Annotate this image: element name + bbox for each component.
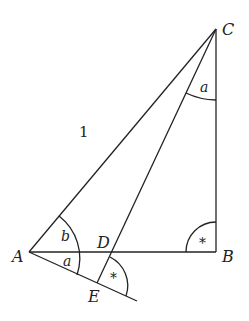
label-D: D xyxy=(96,233,110,252)
angle-label-A-upper: b xyxy=(61,228,70,244)
label-E: E xyxy=(87,287,100,306)
label-B: B xyxy=(221,247,234,266)
angle-label-B: * xyxy=(199,235,206,251)
angle-label-A-lower: a xyxy=(63,253,71,269)
label-side-AC: 1 xyxy=(79,123,89,141)
label-A: A xyxy=(10,247,24,266)
angle-label-E: * xyxy=(110,270,117,286)
angle-label-C: a xyxy=(200,79,208,95)
segment-AC xyxy=(29,29,216,252)
segment-AE xyxy=(29,252,137,301)
label-C: C xyxy=(222,20,234,39)
geometry-diagram: C B A D E 1 a b a * * xyxy=(0,0,249,321)
diagram-canvas: C B A D E 1 a b a * * xyxy=(0,0,249,321)
